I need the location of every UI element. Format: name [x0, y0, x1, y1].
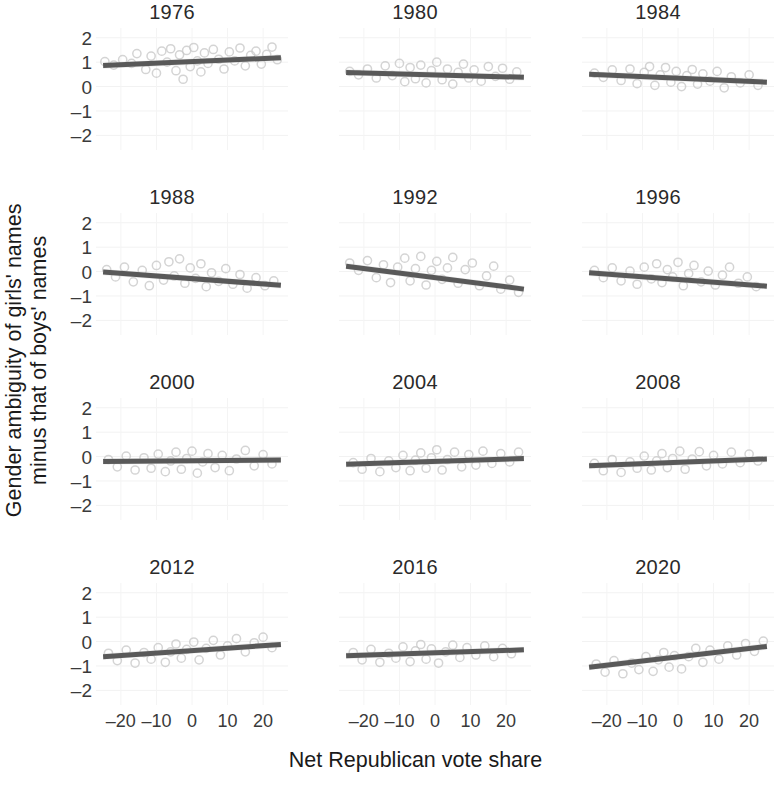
facet-label-2016: 2016: [299, 556, 531, 579]
scatter-point: [427, 266, 435, 274]
scatter-point: [190, 43, 198, 51]
scatter-point: [209, 636, 217, 644]
scatter-point: [401, 254, 409, 262]
facet-panel-1992: 1992: [299, 185, 531, 370]
scatter-point: [498, 64, 506, 72]
scatter-point: [417, 252, 425, 260]
scatter-point: [401, 78, 409, 86]
y-tick-label: –2: [56, 126, 92, 145]
x-axis-ticks-col-1: –20–1001020: [339, 712, 531, 740]
plot-area-2020: [582, 583, 774, 705]
scatter-point: [459, 60, 467, 68]
scatter-point: [672, 67, 680, 75]
x-tick-label: 20: [253, 712, 273, 730]
y-tick-label: 0: [56, 77, 92, 96]
y-tick-label: 2: [56, 398, 92, 417]
scatter-point: [406, 657, 414, 665]
x-tick-label: –20: [349, 712, 379, 730]
scatter-point: [438, 466, 446, 474]
scatter-point: [422, 79, 430, 87]
y-tick-label: –1: [56, 286, 92, 305]
gridlines: [339, 28, 531, 150]
x-axis-ticks-col-2: –20–1001020: [582, 712, 774, 740]
x-tick-label: 20: [496, 712, 516, 730]
scatter-point: [690, 261, 698, 269]
scatter-point: [651, 81, 659, 89]
x-tick-label: –20: [592, 712, 622, 730]
regression-line: [346, 459, 524, 465]
scatter-point: [241, 62, 249, 70]
plot-area-1996: [582, 213, 774, 335]
facet-label-1984: 1984: [542, 1, 774, 24]
scatter-point: [608, 264, 616, 272]
scatter-point: [647, 466, 655, 474]
facet-label-1996: 1996: [542, 186, 774, 209]
scatter-point: [720, 84, 728, 92]
scatter-point: [743, 273, 751, 281]
scatter-point: [653, 260, 661, 268]
scatter-point: [216, 651, 224, 659]
scatter-point: [727, 448, 735, 456]
plot-area-2008: [582, 398, 774, 520]
scatter-point: [725, 263, 733, 271]
facet-panel-1988: 1988210–1–2: [56, 185, 288, 370]
facet-panel-1996: 1996: [542, 185, 774, 370]
plot-area-1980: [339, 28, 531, 150]
scatter-point: [129, 278, 137, 286]
x-axis-ticks-col-0: –20–1001020: [96, 712, 288, 740]
scatter-point: [635, 666, 643, 674]
x-tick-label: –10: [384, 712, 414, 730]
scatter-point: [131, 466, 139, 474]
facet-label-1980: 1980: [299, 1, 531, 24]
facet-panel-2008: 2008: [542, 370, 774, 555]
scatter-point: [147, 52, 155, 60]
scatter-point: [449, 641, 457, 649]
gridlines: [582, 583, 774, 705]
scatter-point: [220, 65, 228, 73]
scatter-point: [172, 67, 180, 75]
scatter-point: [633, 280, 641, 288]
scatter-point: [506, 276, 514, 284]
x-tick-label: –10: [627, 712, 657, 730]
scatter-point: [699, 658, 707, 666]
scatter-point: [685, 269, 693, 277]
scatter-point: [617, 468, 625, 476]
scatter-point: [177, 654, 185, 662]
facet-label-2004: 2004: [299, 371, 531, 394]
scatter-point: [645, 62, 653, 70]
facet-panel-1984: 1984: [542, 0, 774, 185]
scatter-point: [195, 656, 203, 664]
scatter-point: [200, 49, 208, 57]
scatter-point: [482, 272, 490, 280]
scatter-point: [443, 65, 451, 73]
scatter-point: [145, 282, 153, 290]
y-tick-label: –1: [56, 471, 92, 490]
scatter-point: [649, 667, 657, 675]
scatter-point: [179, 75, 187, 83]
y-tick-label: 0: [56, 447, 92, 466]
facet-label-2020: 2020: [542, 556, 774, 579]
scatter-point: [433, 446, 441, 454]
scatter-point: [175, 255, 183, 263]
scatter-point: [443, 264, 451, 272]
chart-figure: Gender ambiguity of girls' names minus t…: [0, 0, 775, 786]
scatter-point: [718, 271, 726, 279]
scatter-point: [193, 469, 201, 477]
scatter-point: [399, 451, 407, 459]
facet-grid: 1976210–1–2198019841988210–1–21992199620…: [56, 0, 775, 745]
x-tick-label: –10: [141, 712, 171, 730]
facet-label-2008: 2008: [542, 371, 774, 394]
scatter-point: [695, 448, 703, 456]
scatter-point: [449, 253, 457, 261]
scatter-point: [186, 264, 194, 272]
scatter-point: [376, 468, 384, 476]
plot-area-2012: [96, 583, 288, 705]
y-tick-label: –1: [56, 656, 92, 675]
x-tick-label: 0: [187, 712, 197, 730]
x-axis-title: Net Republican vote share: [56, 748, 775, 773]
regression-line: [103, 460, 281, 461]
scatter-point: [207, 269, 215, 277]
y-tick-label: –2: [56, 681, 92, 700]
scatter-point: [619, 670, 627, 678]
scatter-point: [422, 655, 430, 663]
